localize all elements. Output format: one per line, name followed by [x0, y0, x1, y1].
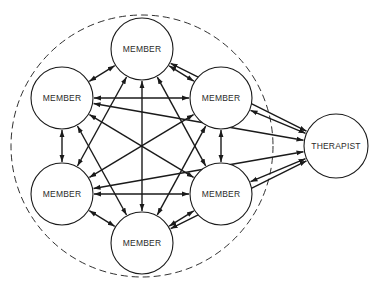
node-m_lr: MEMBER: [190, 163, 252, 225]
node-therapist: THERAPIST: [304, 114, 368, 178]
node-m_top: MEMBER: [111, 18, 173, 80]
node-m_ur: MEMBER: [190, 67, 252, 129]
edge-m_top-m_ul-double-arrow: [89, 66, 114, 82]
node-m_ll: MEMBER: [31, 163, 93, 225]
edge-m_lr-therapist-double-arrow: [251, 159, 306, 182]
node-label: THERAPIST: [311, 141, 361, 151]
nodes-layer: MEMBERMEMBERMEMBERMEMBERMEMBERMEMBERTHER…: [31, 18, 368, 274]
edge-m_ll-m_bot-double-arrow: [89, 211, 114, 227]
node-label: MEMBER: [43, 93, 82, 103]
node-m_bot: MEMBER: [111, 212, 173, 274]
node-m_ul: MEMBER: [31, 67, 93, 129]
edges-layer: [62, 63, 306, 228]
group-therapy-diagram: MEMBERMEMBERMEMBERMEMBERMEMBERMEMBERTHER…: [0, 0, 376, 291]
edge-m_ur-therapist-double-arrow: [251, 110, 306, 133]
node-label: MEMBER: [123, 238, 162, 248]
node-label: MEMBER: [43, 189, 82, 199]
node-label: MEMBER: [202, 189, 241, 199]
node-label: MEMBER: [202, 93, 241, 103]
node-label: MEMBER: [123, 44, 162, 54]
